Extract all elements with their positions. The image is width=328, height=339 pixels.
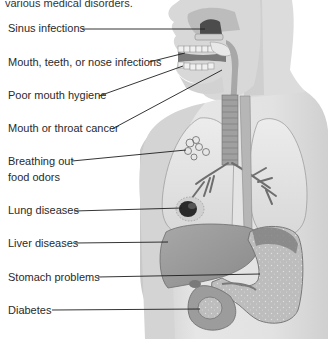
label-liver-diseases: Liver diseases	[8, 237, 78, 250]
label-mouth-teeth-nose-infections: Mouth, teeth, or nose infections	[8, 56, 161, 69]
leader-cancer	[112, 70, 222, 129]
label-breathing-out: Breathing out	[8, 155, 73, 168]
label-diabetes: Diabetes	[8, 304, 51, 317]
leader-lines	[0, 0, 328, 339]
leader-lung	[74, 208, 182, 211]
label-sinus-infections: Sinus infections	[8, 22, 85, 35]
label-mouth-throat-cancer: Mouth or throat cancer	[8, 122, 119, 135]
label-food-odors: food odors	[8, 171, 60, 184]
leader-liver	[75, 242, 168, 243]
leader-hygiene	[99, 66, 183, 96]
label-stomach-problems: Stomach problems	[8, 271, 100, 284]
leader-stomach	[98, 274, 260, 277]
label-lung-diseases: Lung diseases	[8, 204, 79, 217]
leader-breathing	[72, 150, 186, 161]
label-poor-mouth-hygiene: Poor mouth hygiene	[8, 89, 106, 102]
leader-diabetes	[52, 309, 200, 310]
